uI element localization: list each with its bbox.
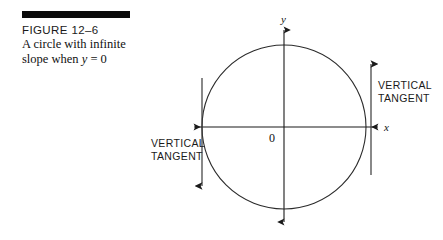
figure-screenshot: FIGURE 12–6 A circle with infinite slope… — [0, 0, 443, 240]
figure-description-suffix: = 0 — [87, 52, 107, 66]
figure-description-prefix: slope when — [22, 52, 82, 66]
x-axis-label: x — [383, 121, 389, 133]
vertical-tangent-label-right-line2: TANGENT — [378, 92, 430, 104]
figure-number-label: FIGURE 12–6 — [22, 23, 152, 37]
vertical-tangent-label-left-line2: TANGENT — [151, 150, 203, 162]
figure-description-line-2: slope when y = 0 — [22, 52, 152, 67]
figure-description-line-1: A circle with infinite — [22, 37, 152, 52]
origin-label: 0 — [269, 131, 275, 145]
circle-diagram: x y 0 VERTICAL TANGENT VERTICAL TANGENT — [150, 0, 443, 240]
y-axis-label: y — [280, 13, 286, 25]
diagram-svg: x y 0 VERTICAL TANGENT VERTICAL TANGENT — [150, 0, 443, 240]
caption-rule-bar — [22, 11, 130, 18]
vertical-tangent-label-right-line1: VERTICAL — [378, 79, 432, 91]
figure-description-text-1: A circle with infinite — [22, 37, 126, 51]
figure-caption-block: FIGURE 12–6 A circle with infinite slope… — [22, 11, 152, 66]
vertical-tangent-label-left-line1: VERTICAL — [151, 137, 205, 149]
